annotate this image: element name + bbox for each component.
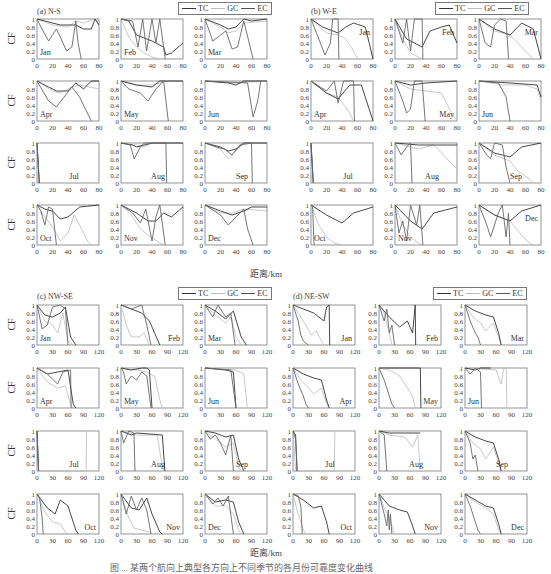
- month-label: Dec: [208, 523, 221, 532]
- y-axis-label: CF: [6, 444, 17, 456]
- x-axis-title-top: 距离/km: [250, 267, 282, 280]
- svg-text:60: 60: [248, 248, 256, 256]
- svg-text:90: 90: [422, 411, 430, 419]
- panel-c-aug: 00.20.40.60.810306090120Aug: [101, 429, 189, 483]
- panel-a-sep: 00.20.40.60.81020406080Sep: [185, 141, 273, 195]
- svg-text:0: 0: [477, 62, 481, 70]
- svg-text:0.2: 0.2: [468, 172, 477, 180]
- panel-b-oct: 00.20.40.60.81020406080Oct: [291, 203, 379, 257]
- svg-text:0: 0: [119, 537, 123, 545]
- svg-text:40: 40: [507, 124, 515, 132]
- svg-text:20: 20: [217, 62, 225, 70]
- svg-text:0.6: 0.6: [26, 218, 35, 226]
- svg-text:0.6: 0.6: [468, 156, 477, 164]
- month-label: May: [423, 397, 438, 406]
- svg-text:1: 1: [116, 140, 120, 148]
- svg-text:0.6: 0.6: [110, 318, 119, 326]
- svg-text:40: 40: [233, 248, 241, 256]
- svg-text:90: 90: [164, 537, 172, 545]
- svg-text:0: 0: [119, 411, 123, 419]
- svg-text:30: 30: [49, 474, 57, 482]
- month-label: Jan: [341, 334, 352, 343]
- panel-d-nov: 00.20.40.60.810306090120Nov: [359, 492, 447, 546]
- svg-text:0.2: 0.2: [110, 48, 119, 56]
- svg-text:0: 0: [35, 537, 39, 545]
- svg-text:1: 1: [116, 16, 120, 24]
- panel-c-feb: 00.20.40.60.810306090120Feb: [101, 303, 189, 357]
- svg-text:90: 90: [508, 348, 516, 356]
- legend-item-tc: TC: [437, 289, 463, 298]
- svg-text:1: 1: [474, 140, 478, 148]
- panel-c-oct: 00.20.40.60.810306090120Oct: [17, 492, 105, 546]
- svg-text:30: 30: [217, 537, 225, 545]
- svg-text:0.2: 0.2: [26, 334, 35, 342]
- svg-text:0: 0: [35, 186, 39, 194]
- svg-text:0.6: 0.6: [454, 507, 463, 515]
- svg-text:0.2: 0.2: [368, 460, 377, 468]
- svg-text:0.8: 0.8: [384, 24, 393, 32]
- svg-text:0.8: 0.8: [282, 310, 291, 318]
- svg-text:0.2: 0.2: [110, 234, 119, 242]
- svg-text:0: 0: [203, 411, 207, 419]
- svg-text:0.8: 0.8: [454, 499, 463, 507]
- svg-text:60: 60: [248, 62, 256, 70]
- svg-text:40: 40: [423, 248, 431, 256]
- svg-text:20: 20: [323, 62, 331, 70]
- svg-text:0.2: 0.2: [300, 172, 309, 180]
- svg-text:0.6: 0.6: [194, 156, 203, 164]
- svg-text:0.2: 0.2: [384, 48, 393, 56]
- svg-text:60: 60: [164, 186, 172, 194]
- svg-text:40: 40: [149, 186, 157, 194]
- svg-text:30: 30: [305, 348, 313, 356]
- svg-text:0: 0: [203, 248, 207, 256]
- x-axis-title-bottom: 距离/km: [250, 546, 282, 559]
- svg-text:0: 0: [309, 62, 313, 70]
- svg-text:60: 60: [407, 348, 415, 356]
- svg-text:0.8: 0.8: [468, 24, 477, 32]
- svg-text:1: 1: [474, 78, 478, 86]
- svg-text:60: 60: [438, 186, 446, 194]
- svg-text:0.8: 0.8: [194, 148, 203, 156]
- svg-text:20: 20: [133, 186, 141, 194]
- svg-text:1: 1: [200, 202, 204, 210]
- svg-text:0.8: 0.8: [194, 310, 203, 318]
- svg-text:0.6: 0.6: [300, 156, 309, 164]
- svg-text:0.4: 0.4: [384, 164, 393, 172]
- svg-text:0.8: 0.8: [26, 310, 35, 318]
- ec-swatch-icon: [496, 293, 510, 294]
- svg-text:0.6: 0.6: [454, 381, 463, 389]
- figure-caption: 图 ... 某两个航向上典型各方向上不同季节的各月份可靠度变化曲线: [110, 561, 373, 574]
- month-label: Nov: [124, 234, 138, 243]
- svg-text:1: 1: [374, 302, 378, 310]
- y-axis-label: CF: [6, 94, 17, 106]
- svg-text:30: 30: [477, 537, 485, 545]
- svg-text:1: 1: [288, 365, 292, 373]
- svg-text:0: 0: [35, 411, 39, 419]
- month-label: Aug: [151, 172, 165, 181]
- svg-text:0.4: 0.4: [300, 102, 309, 110]
- svg-text:0: 0: [477, 186, 481, 194]
- svg-text:0.8: 0.8: [468, 86, 477, 94]
- svg-text:1: 1: [32, 428, 36, 436]
- svg-text:40: 40: [507, 62, 515, 70]
- month-label: Mar: [525, 28, 539, 37]
- svg-text:0: 0: [203, 537, 207, 545]
- legend-bottom-right: TC GC EC: [433, 287, 527, 300]
- svg-text:1: 1: [460, 428, 464, 436]
- svg-text:0.4: 0.4: [368, 452, 377, 460]
- svg-text:60: 60: [65, 348, 73, 356]
- svg-text:0.2: 0.2: [110, 460, 119, 468]
- svg-text:0: 0: [119, 348, 123, 356]
- svg-text:0.6: 0.6: [194, 444, 203, 452]
- svg-text:90: 90: [422, 348, 430, 356]
- svg-text:0.4: 0.4: [282, 515, 291, 523]
- svg-text:1: 1: [32, 16, 36, 24]
- svg-text:60: 60: [407, 474, 415, 482]
- panel-c-jul: 00.20.40.60.810306090120Jul: [17, 429, 105, 483]
- legend-top-left: TC GC EC: [178, 2, 272, 15]
- gc-swatch-icon: [466, 293, 480, 294]
- svg-text:40: 40: [65, 124, 73, 132]
- svg-text:30: 30: [391, 411, 399, 419]
- month-label: Jun: [208, 110, 219, 119]
- svg-text:30: 30: [217, 411, 225, 419]
